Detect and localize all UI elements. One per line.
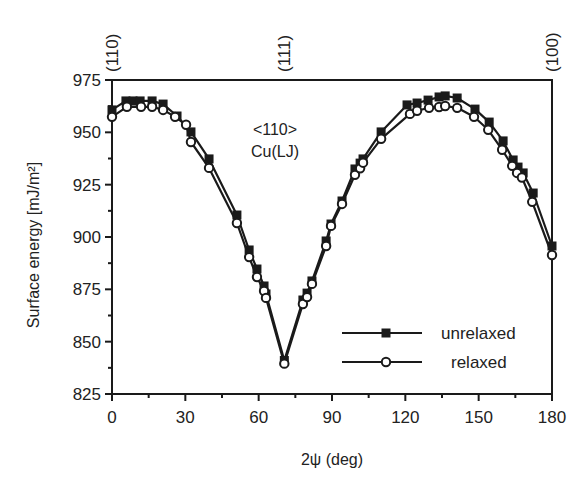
x-tick-label: 150 xyxy=(464,408,492,427)
open-circle-marker-icon xyxy=(253,273,261,281)
open-circle-marker-icon xyxy=(171,113,179,121)
open-circle-marker-icon xyxy=(377,135,385,143)
x-tick-label: 180 xyxy=(538,408,566,427)
open-circle-marker-icon xyxy=(413,107,421,115)
open-circle-marker-icon xyxy=(453,104,461,112)
open-circle-marker-icon xyxy=(280,359,288,367)
open-circle-marker-icon xyxy=(262,294,270,302)
x-tick-label: 120 xyxy=(391,408,419,427)
open-circle-marker-icon xyxy=(470,113,478,121)
open-circle-marker-icon xyxy=(308,280,316,288)
chart-canvas: 8258508759009259509750306090120150180(11… xyxy=(0,0,587,487)
surface-orientation-label: (100) xyxy=(543,32,562,72)
open-circle-marker-icon xyxy=(382,358,390,366)
x-tick-label: 30 xyxy=(176,408,195,427)
y-tick-label: 925 xyxy=(73,176,101,195)
annotation-direction: <110> xyxy=(253,121,297,138)
open-circle-marker-icon xyxy=(548,251,556,259)
filled-square-marker-icon xyxy=(205,154,214,163)
y-tick-label: 950 xyxy=(73,123,101,142)
y-tick-label: 975 xyxy=(73,71,101,90)
y-axis-title: Surface energy [mJ/m²] xyxy=(25,162,42,328)
open-circle-marker-icon xyxy=(425,104,433,112)
filled-square-marker-icon xyxy=(529,189,538,198)
y-tick-label: 825 xyxy=(73,385,101,404)
filled-square-marker-icon xyxy=(441,91,450,100)
open-circle-marker-icon xyxy=(322,242,330,250)
open-circle-marker-icon xyxy=(137,103,145,111)
open-circle-marker-icon xyxy=(205,164,213,172)
y-tick-label: 900 xyxy=(73,228,101,247)
open-circle-marker-icon xyxy=(484,126,492,134)
y-tick-label: 875 xyxy=(73,280,101,299)
x-tick-label: 90 xyxy=(323,408,342,427)
open-circle-marker-icon xyxy=(233,219,241,227)
open-circle-marker-icon xyxy=(187,138,195,146)
filled-square-marker-icon xyxy=(453,94,462,103)
filled-square-marker-icon xyxy=(403,100,412,109)
open-circle-marker-icon xyxy=(498,146,506,154)
open-circle-marker-icon xyxy=(245,253,253,261)
open-circle-marker-icon xyxy=(123,103,131,111)
annotations: <110> Cu(LJ) xyxy=(251,121,299,160)
legend-label-unrelaxed: unrelaxed xyxy=(441,324,516,343)
x-tick-label: 0 xyxy=(107,408,116,427)
y-tick-label: 850 xyxy=(73,333,101,352)
open-circle-marker-icon xyxy=(182,121,190,129)
open-circle-marker-icon xyxy=(518,173,526,181)
open-circle-marker-icon xyxy=(441,102,449,110)
open-circle-marker-icon xyxy=(108,113,116,121)
open-circle-marker-icon xyxy=(359,158,367,166)
open-circle-marker-icon xyxy=(528,198,536,206)
open-circle-marker-icon xyxy=(303,293,311,301)
filled-square-marker-icon xyxy=(548,242,557,251)
open-circle-marker-icon xyxy=(338,200,346,208)
open-circle-marker-icon xyxy=(148,103,156,111)
open-circle-marker-icon xyxy=(327,222,335,230)
annotation-material: Cu(LJ) xyxy=(251,143,299,160)
surface-energy-chart: 8258508759009259509750306090120150180(11… xyxy=(0,0,587,487)
filled-square-marker-icon xyxy=(382,329,391,338)
surface-orientation-label: (110) xyxy=(103,34,122,72)
open-circle-marker-icon xyxy=(159,106,167,114)
x-tick-label: 60 xyxy=(249,408,268,427)
x-axis-title: 2ψ (deg) xyxy=(301,451,363,468)
surface-orientation-label: (111) xyxy=(275,35,294,72)
filled-square-marker-icon xyxy=(499,136,508,145)
legend: unrelaxed relaxed xyxy=(342,324,516,372)
legend-label-relaxed: relaxed xyxy=(451,353,507,372)
